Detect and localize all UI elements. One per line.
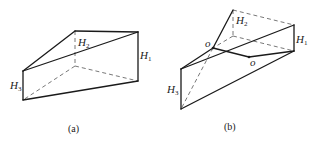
edge-top-back bbox=[75, 31, 138, 32]
label-h3: H3 bbox=[9, 79, 22, 93]
edge-top-left-upper bbox=[213, 10, 233, 48]
edge-top-left bbox=[23, 31, 75, 71]
point-o1 bbox=[212, 47, 215, 50]
diagram-canvas: H2 H1 H3 (a) H2 H1 H3 o o (b) bbox=[0, 0, 316, 144]
caption-b: (b) bbox=[224, 121, 236, 133]
hidden-edge-base-right bbox=[75, 66, 138, 81]
label-h3: H3 bbox=[166, 83, 179, 97]
hidden-edge-base-left bbox=[23, 66, 75, 100]
caption-a: (a) bbox=[68, 123, 79, 135]
label-o1: o bbox=[205, 37, 211, 49]
figure-a: H2 H1 H3 (a) bbox=[9, 31, 152, 135]
figure-b: H2 H1 H3 o o (b) bbox=[166, 10, 308, 133]
edge-base-front bbox=[181, 51, 294, 109]
label-o2: o bbox=[250, 56, 256, 68]
label-h1: H1 bbox=[295, 33, 308, 47]
hidden-edge-base-right bbox=[233, 36, 294, 51]
label-h2: H2 bbox=[77, 36, 90, 50]
edge-base-front bbox=[23, 81, 138, 100]
hidden-edge-base-left-lower bbox=[181, 48, 213, 109]
label-h1: H1 bbox=[139, 49, 152, 63]
label-h2: H2 bbox=[235, 14, 248, 28]
